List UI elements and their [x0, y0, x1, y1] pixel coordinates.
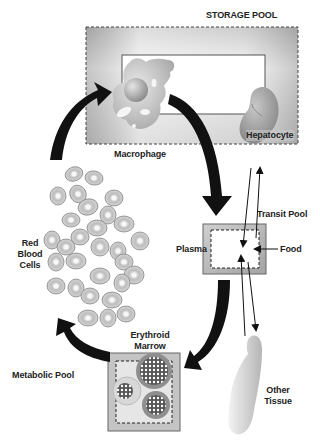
red-blood-cells-icon — [44, 164, 149, 327]
macrophage-label: Macrophage — [114, 149, 166, 160]
arrow-plasma-to-marrow — [184, 280, 230, 370]
food-label: Food — [280, 244, 302, 255]
erythroid-marrow-label: Erythroid Marrow — [128, 330, 172, 352]
other-tissue-icon — [228, 336, 262, 435]
transit-pool-label: Transit Pool — [257, 209, 307, 220]
erythroid-marrow-box — [108, 353, 180, 431]
plasma-label: Plasma — [176, 244, 207, 255]
hepatocyte-label: Hepatocyte — [246, 130, 294, 141]
red-blood-cells-label: Red Blood Cells — [16, 238, 44, 271]
storage-pool-label: STORAGE POOL — [206, 10, 277, 21]
metabolic-pool-label: Metabolic Pool — [12, 370, 74, 381]
other-tissue-label: Other Tissue — [260, 385, 296, 407]
